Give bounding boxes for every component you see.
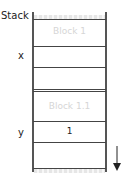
divider bbox=[33, 46, 106, 47]
x-label: x bbox=[18, 50, 24, 61]
divider bbox=[33, 89, 106, 90]
down-arrow-icon bbox=[112, 146, 122, 172]
divider bbox=[33, 91, 106, 92]
divider bbox=[33, 67, 106, 68]
bottom-fringe bbox=[34, 169, 105, 173]
divider bbox=[33, 142, 106, 143]
cell-block-1-1: Block 1.1 bbox=[34, 101, 105, 111]
divider bbox=[33, 19, 106, 20]
cell-value-1: 1 bbox=[34, 126, 105, 136]
cell-block-1: Block 1 bbox=[34, 26, 105, 36]
stack-label: Stack bbox=[1, 10, 29, 21]
right-wall bbox=[105, 12, 107, 172]
left-wall bbox=[32, 12, 34, 172]
y-label: y bbox=[18, 127, 24, 138]
divider bbox=[33, 121, 106, 122]
